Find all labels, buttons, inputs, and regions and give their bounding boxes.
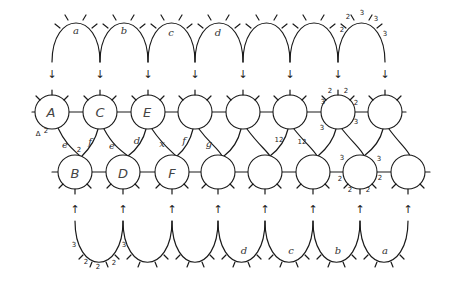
cup1-num-1: 2 — [84, 258, 88, 266]
edge-label-delta: ∆ — [35, 130, 41, 138]
up-arrow-icon: ↑ — [260, 203, 269, 216]
arch7-num-1: 2 — [340, 26, 344, 34]
up-arrow-icon: ↑ — [118, 203, 127, 216]
edge-label-B-2: 2 — [77, 146, 81, 154]
down-arrow-icon: ↓ — [333, 68, 342, 81]
down-arrow-icon: ↓ — [143, 68, 152, 81]
node-label-E: E — [143, 105, 152, 120]
node7b-num-b1: 2 — [348, 186, 352, 194]
bottom-cup-label-b: b — [335, 245, 341, 256]
edge-labels: ∆ 2 e 2 f e d x f g 12 12 3 — [35, 124, 325, 154]
node7-num-left: 3 — [321, 98, 325, 106]
bottom-cup-label-a: a — [382, 245, 388, 256]
edge-label-x: x — [159, 138, 165, 149]
down-arrow-icon: ↓ — [95, 68, 104, 81]
node-label-C: C — [95, 105, 105, 120]
edge-label-12a: 12 — [275, 136, 284, 144]
edge-label-d: d — [134, 135, 140, 146]
top-arch-5 — [243, 23, 290, 62]
cup1-num-2: 2 — [96, 263, 100, 271]
node7-num-br: 3 — [354, 118, 358, 126]
up-arrow-icon: ↑ — [213, 203, 222, 216]
node-label-F: F — [168, 166, 176, 181]
top-arches: a b c d 2 2 3 3 3 — [52, 9, 387, 62]
node-label-A: A — [46, 105, 56, 120]
node7-num-right: 2 — [354, 99, 358, 107]
arch7-num-5: 3 — [383, 30, 387, 38]
top-arch-label-a: a — [73, 25, 79, 36]
top-arch-label-b: b — [121, 25, 127, 36]
bottom-cup-ticks — [79, 255, 404, 267]
bottom-arrows: ↑ ↑ ↑ ↑ ↑ ↑ ↑ ↑ — [70, 203, 412, 216]
cup1-num-left: 3 — [72, 241, 76, 249]
node7-num-tl: 2 — [328, 87, 332, 95]
down-arrow-icon: ↓ — [47, 68, 56, 81]
up-arrow-icon: ↑ — [308, 203, 317, 216]
bottom-cup-label-c: c — [288, 245, 294, 256]
bottom-cups: 3 2 2 2 3 d c b a — [72, 221, 408, 271]
top-arrows: ↓ ↓ ↓ ↓ ↓ ↓ ↓ ↓ — [47, 68, 389, 81]
node-label-D: D — [118, 166, 128, 181]
bottom-row-nodes: B D F 3 3 2 2 2 2 — [58, 154, 425, 194]
arch7-num-4: 3 — [374, 15, 378, 23]
top-arch-6 — [290, 23, 338, 62]
edge-label-e1: e — [62, 139, 68, 150]
up-arrow-icon: ↑ — [403, 203, 412, 216]
cup1-num-right: 3 — [122, 241, 126, 249]
arch7-num-2: 2 — [346, 13, 350, 21]
bottom-cup-label-d: d — [241, 245, 247, 256]
edge-label-g: g — [206, 138, 212, 149]
node7b-num-left: 3 — [340, 154, 344, 162]
up-arrow-icon: ↑ — [70, 203, 79, 216]
down-arrow-icon: ↓ — [380, 68, 389, 81]
cup1-num-3: 2 — [112, 259, 116, 267]
circle-chain-diagram: a b c d 2 2 3 3 3 ↓ ↓ ↓ ↓ ↓ ↓ ↓ ↓ — [0, 0, 453, 291]
top-arch-label-d: d — [215, 27, 221, 38]
down-arrow-icon: ↓ — [190, 68, 199, 81]
node7b-num-b2: 2 — [366, 186, 370, 194]
edge-label-e2: e — [109, 140, 115, 151]
top-arch-label-c: c — [168, 27, 174, 38]
arch7-num-3: 3 — [360, 9, 364, 17]
down-arrow-icon: ↓ — [285, 68, 294, 81]
node-label-B: B — [71, 166, 80, 181]
top-arch-7 — [338, 23, 385, 62]
top-row-nodes: A C E 3 2 2 2 3 — [35, 87, 402, 129]
down-arrow-icon: ↓ — [238, 68, 247, 81]
edge-label-A-2: 2 — [44, 127, 48, 135]
node7b-num-bl: 2 — [338, 175, 342, 183]
diagram-canvas: a b c d 2 2 3 3 3 ↓ ↓ ↓ ↓ ↓ ↓ ↓ ↓ — [0, 0, 453, 291]
node7b-num-br: 2 — [378, 174, 382, 182]
edge-label-12b: 12 — [298, 138, 307, 146]
up-arrow-icon: ↑ — [167, 203, 176, 216]
up-arrow-icon: ↑ — [355, 203, 364, 216]
node7-num-tr: 2 — [344, 87, 348, 95]
edge-label-3: 3 — [320, 124, 324, 132]
node7b-num-right: 3 — [377, 155, 381, 163]
